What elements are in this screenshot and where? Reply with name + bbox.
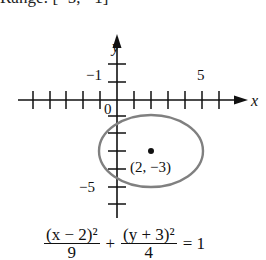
center-point [148, 148, 154, 154]
fraction-x-numerator: (x − 2)² [44, 226, 100, 244]
center-label: (2, −3) [130, 159, 171, 176]
fraction-y-numerator: (y + 3)² [121, 226, 177, 244]
y-tick-label-neg5: −5 [79, 179, 95, 195]
fraction-x: (x − 2)² 9 [44, 226, 100, 260]
fraction-y-denominator: 4 [145, 244, 154, 260]
plus-sign: + [106, 234, 116, 254]
x-axis-label: x [250, 92, 258, 109]
x-axis-arrow-icon [234, 96, 248, 105]
equation-rhs: = 1 [183, 234, 205, 254]
fraction-x-denominator: 9 [68, 244, 77, 260]
ellipse-graph: y x −1 5 0 −5 (2, −3) [0, 0, 266, 260]
ellipse-equation: (x − 2)² 9 + (y + 3)² 4 = 1 [44, 226, 211, 260]
x-tick-label-5: 5 [197, 67, 205, 83]
y-tick-label-neg1: −1 [86, 67, 102, 83]
y-axis-label: y [110, 38, 120, 56]
fraction-y: (y + 3)² 4 [121, 226, 177, 260]
origin-label: 0 [104, 101, 112, 117]
